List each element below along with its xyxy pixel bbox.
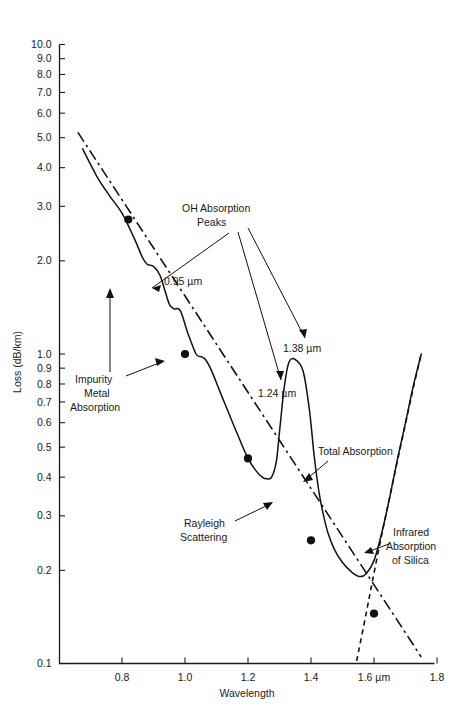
axis-frame: [60, 45, 435, 664]
x-tick-label: 1.8: [430, 671, 445, 683]
x-axis-title: Wavelength: [219, 687, 274, 699]
y-tick-label: 5.0: [37, 131, 52, 143]
peak-095-label: 0.95 µm: [164, 275, 202, 287]
infrared-label-line1: Infrared: [393, 526, 429, 538]
y-tick-label: 6.0: [37, 107, 52, 119]
y-tick-label: 0.9: [37, 362, 52, 374]
oh-leader-to-138: [248, 228, 305, 338]
rayleigh-leader: [235, 505, 268, 521]
total-absorption-label: Total Absorption: [318, 445, 393, 457]
impurity-label-line3: Absorption: [70, 401, 120, 413]
oh-arrow-095: [152, 285, 161, 292]
y-tick-label: 0.3: [37, 509, 52, 521]
oh-leader-to-124: [238, 232, 281, 380]
oh-arrow-124: [276, 371, 284, 380]
annotation-impurity-metal-absorption: Impurity Metal Absorption: [70, 288, 165, 413]
infrared-label-line3: of Silica: [392, 554, 429, 566]
infrared-absorption-curve: [357, 354, 422, 661]
infrared-label-line2: Absorption: [386, 540, 436, 552]
y-axis-title: Loss (dB/km): [11, 331, 23, 393]
y-tick-label: 3.0: [37, 200, 52, 212]
y-tick-label: 10.0: [31, 38, 52, 50]
y-tick-label: 0.6: [37, 416, 52, 428]
y-tick-label: 0.1: [37, 657, 52, 669]
fiber-loss-chart: 10.09.08.07.06.05.04.03.02.01.00.90.80.7…: [0, 0, 465, 707]
x-tick-label: 1.4: [304, 671, 319, 683]
y-axis-ticks: [60, 45, 66, 664]
rayleigh-arrow: [263, 502, 273, 510]
rayleigh-label-line1: Rayleigh: [184, 517, 225, 529]
y-tick-label: 0.2: [37, 564, 52, 576]
infrared-arrow: [364, 547, 374, 554]
oh-absorption-peaks-label-line1: OH Absorption: [182, 202, 250, 214]
impurity-arrow-diagonal: [155, 358, 165, 366]
y-axis-tick-labels: 10.09.08.07.06.05.04.03.02.01.00.90.80.7…: [31, 38, 52, 669]
x-axis-tick-labels: 0.81.01.21.41.6 µm1.8: [115, 671, 445, 683]
y-tick-label: 2.0: [37, 254, 52, 266]
y-tick-label: 0.7: [37, 396, 52, 408]
impurity-label-line2: Metal: [84, 387, 110, 399]
data-point-marker: [370, 609, 378, 617]
y-tick-label: 8.0: [37, 68, 52, 80]
y-tick-label: 9.0: [37, 52, 52, 64]
rayleigh-label-line2: Scattering: [180, 531, 227, 543]
peak-124-label: 1.24 µm: [258, 387, 296, 399]
y-tick-label: 1.0: [37, 348, 52, 360]
oh-arrow-138: [299, 329, 307, 338]
data-point-marker: [244, 454, 252, 462]
annotation-rayleigh-scattering: Rayleigh Scattering: [180, 502, 273, 543]
peak-138-label: 1.38 µm: [283, 342, 321, 354]
data-point-marker: [307, 536, 315, 544]
x-tick-label: 1.0: [178, 671, 193, 683]
x-tick-label: 1.6 µm: [358, 671, 391, 683]
figure-page: 10.09.08.07.06.05.04.03.02.01.00.90.80.7…: [0, 0, 465, 707]
y-tick-label: 4.0: [37, 161, 52, 173]
oh-absorption-peaks-label-line2: Peaks: [197, 216, 226, 228]
impurity-leader-diagonal: [126, 363, 159, 376]
total-absorption-leader: [308, 461, 328, 478]
x-tick-label: 1.2: [241, 671, 256, 683]
x-axis-ticks: [122, 658, 437, 664]
axis-lines: [60, 45, 435, 664]
y-tick-label: 0.8: [37, 378, 52, 390]
y-tick-label: 0.4: [37, 471, 52, 483]
impurity-label-line1: Impurity: [75, 373, 113, 385]
y-tick-label: 7.0: [37, 86, 52, 98]
data-point-marker: [181, 350, 189, 358]
impurity-arrow-up: [106, 288, 114, 298]
x-tick-label: 0.8: [115, 671, 130, 683]
data-point-marker: [124, 215, 132, 223]
y-tick-label: 0.5: [37, 441, 52, 453]
